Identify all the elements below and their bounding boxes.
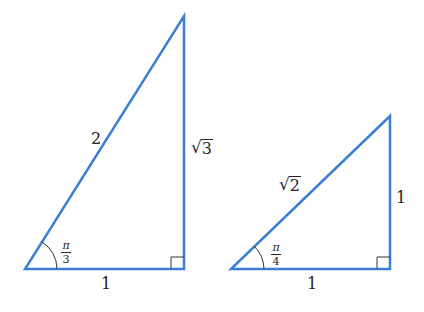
- adjacent-label-right: 1: [307, 276, 317, 292]
- opposite-label-right: 1: [396, 190, 406, 206]
- angle-numerator: π: [61, 240, 70, 251]
- triangle-outline-right: [231, 116, 390, 269]
- radicand: 3: [201, 139, 213, 157]
- angle-numerator: π: [271, 242, 280, 253]
- opposite-label-left: √ 3: [191, 139, 213, 157]
- angle-label-left: π 3: [61, 240, 71, 265]
- triangle-outline-left: [25, 16, 184, 269]
- angle-arc-right: [254, 246, 264, 269]
- hypotenuse-label-right: √ 2: [279, 176, 301, 194]
- angle-label-right: π 4: [271, 242, 281, 267]
- adjacent-label-left: 1: [101, 276, 111, 292]
- radicand: 2: [289, 176, 301, 194]
- right-angle-marker-right: [377, 257, 390, 269]
- hypotenuse-label-left: 2: [91, 131, 101, 147]
- right-angle-marker-left: [171, 257, 184, 269]
- angle-denominator: 3: [63, 254, 70, 265]
- angle-arc-left: [42, 242, 57, 269]
- angle-denominator: 4: [273, 256, 280, 267]
- triangle-pi-over-3: [25, 16, 184, 269]
- triangle-pi-over-4: [231, 116, 390, 269]
